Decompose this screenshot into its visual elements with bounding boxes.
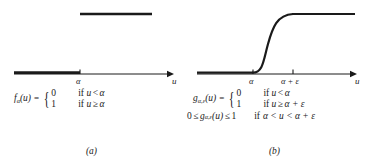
sigmoid-ramp — [253, 14, 293, 73]
case-condition: if u≥α + ε — [243, 99, 304, 110]
cond-prefix: if — [78, 99, 84, 109]
case-condition: if u≥α — [58, 99, 104, 110]
cases-list-a: 0 if u<α 1 if u≥α — [51, 88, 104, 109]
equation-lhs-b: gα,ε(u) — [193, 93, 216, 104]
cond-rhs: α + ε — [285, 99, 305, 109]
case-condition: if u<α — [58, 88, 104, 99]
range-condition-row: 0≤gα,ε(u)≤1 if α < u < α + ε — [183, 111, 366, 122]
cond-prefix: if — [263, 99, 269, 109]
case-value: 1 — [51, 99, 58, 110]
equation-lhs-a: fα(u) — [14, 93, 31, 104]
equals-sign-a: = — [31, 93, 42, 103]
case-row: 1 if u≥α — [51, 99, 104, 110]
function-argument-b: (u) — [205, 93, 216, 103]
figure-root: α u fα(u) = { 0 if u<α 1 if u≥α — [0, 0, 366, 168]
case-value: 0 — [51, 88, 58, 99]
equals-sign-b: = — [216, 93, 227, 103]
tick-label-alpha-b: α — [249, 77, 253, 86]
cond-operator: ≥ — [276, 99, 284, 109]
range-cond-prefix: if — [236, 111, 260, 122]
panel-caption-b: (b) — [183, 146, 366, 156]
case-row: 0 if u<α — [236, 88, 304, 99]
range-cond-expression: α < u < α + ε — [260, 111, 315, 122]
cond-prefix: if — [78, 88, 84, 98]
cond-operator: < — [276, 88, 284, 98]
range-operator-right: ≤ — [223, 111, 231, 122]
case-condition: if u<α — [243, 88, 289, 99]
equation-g-alpha-epsilon: gα,ε(u) = { 0 if u<α 1 if u≥α + ε — [183, 88, 366, 122]
case-value: 0 — [236, 88, 243, 99]
function-argument-a: (u) — [20, 93, 31, 103]
cond-rhs: α — [99, 99, 104, 109]
tick-label-alpha-a: α — [76, 77, 80, 86]
cond-rhs: α — [285, 88, 290, 98]
case-row: 1 if u≥α + ε — [236, 99, 304, 110]
panel-b: α α + ε u gα,ε(u) = { 0 if u<α 1 if — [183, 0, 366, 168]
range-function-subscript: α,ε — [205, 113, 212, 120]
equation-f-alpha: fα(u) = { 0 if u<α 1 if u≥α — [0, 88, 183, 109]
cond-rhs: α — [100, 88, 105, 98]
cond-prefix: if — [263, 88, 269, 98]
plot-step-function: α u — [0, 0, 183, 90]
plot-sigmoid-function: α α + ε u — [183, 0, 366, 90]
cond-operator: < — [91, 88, 99, 98]
cases-list-b: 0 if u<α 1 if u≥α + ε — [236, 88, 304, 109]
axis-label-u-b: u — [355, 77, 360, 86]
axis-label-u-a: u — [172, 77, 177, 86]
panel-a: α u fα(u) = { 0 if u<α 1 if u≥α — [0, 0, 183, 168]
panel-caption-a: (a) — [0, 146, 183, 156]
tick-label-alpha-plus-epsilon-b: α + ε — [281, 77, 299, 86]
case-row: 0 if u<α — [51, 88, 104, 99]
range-operator-left: ≤ — [192, 111, 200, 122]
case-value: 1 — [236, 99, 243, 110]
range-function-argument: (u) — [212, 111, 223, 122]
